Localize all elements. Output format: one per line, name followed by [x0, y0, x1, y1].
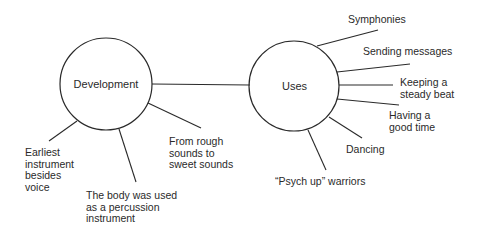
- branch-label-rough: From rough sounds to sweet sounds: [169, 136, 233, 171]
- branch-label-symphonies: Symphonies: [348, 14, 406, 26]
- branch-line-psych: [308, 130, 326, 170]
- branch-label-body: The body was used as a percussion instru…: [86, 190, 177, 225]
- branch-label-earliest: Earliest instrument besides voice: [25, 147, 74, 193]
- branch-label-sending: Sending messages: [363, 46, 452, 58]
- branch-line-symphonies: [317, 30, 378, 46]
- branch-label-keeping: Keeping a steady beat: [400, 77, 454, 100]
- branch-line-dancing: [329, 117, 362, 138]
- branch-line-having: [337, 99, 399, 105]
- branch-label-dancing: Dancing: [346, 144, 385, 156]
- branch-line-body: [119, 129, 136, 182]
- branch-label-having: Having a good time: [389, 110, 435, 133]
- branch-line-sending: [337, 64, 410, 72]
- branch-line-rough: [148, 103, 201, 128]
- connector-development-uses: [152, 84, 250, 85]
- node-development-label: Development: [60, 78, 152, 90]
- branch-label-psych: “Psych up” warriors: [275, 176, 365, 188]
- branch-line-earliest: [49, 121, 77, 141]
- node-uses-label: Uses: [250, 80, 339, 92]
